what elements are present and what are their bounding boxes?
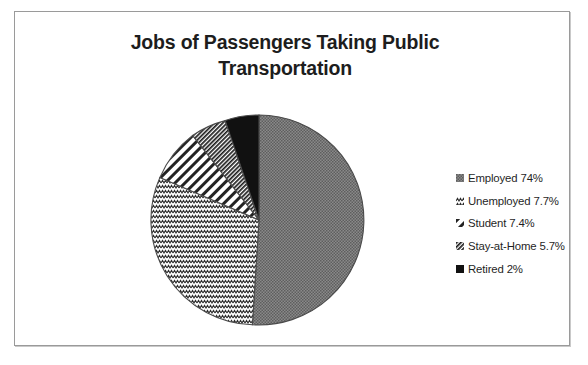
legend-swatch-zigzag-icon	[456, 197, 464, 205]
chart-title-line-1: Jobs of Passengers Taking Public	[131, 31, 440, 53]
pie-slice-employed[interactable]	[252, 115, 363, 325]
legend-swatch-dense-diagonal-icon	[456, 242, 464, 250]
legend-item-student[interactable]: Student 7.4%	[456, 212, 586, 235]
legend-item-retired[interactable]: Retired 2%	[456, 257, 586, 280]
legend-item-unemployed[interactable]: Unemployed 7.7%	[456, 190, 586, 213]
chart-title-line-2: Transportation	[218, 57, 352, 79]
legend-label-employed: Employed 74%	[468, 172, 543, 184]
pie-chart-plot-area	[143, 104, 375, 336]
legend-label-unemployed: Unemployed 7.7%	[468, 195, 559, 207]
legend-label-stay-at-home: Stay-at-Home 5.7%	[468, 240, 565, 252]
legend-item-employed[interactable]: Employed 74%	[456, 167, 586, 190]
legend-label-student: Student 7.4%	[468, 217, 535, 229]
legend-swatch-solid-black-icon	[456, 265, 464, 273]
pie-chart-svg	[143, 104, 375, 336]
chart-legend: Employed 74% Unemployed 7.7% Student 7.4…	[456, 167, 586, 280]
legend-label-retired: Retired 2%	[468, 263, 523, 275]
legend-swatch-diagonal-stripes-icon	[456, 219, 464, 227]
chart-title: Jobs of Passengers Taking Public Transpo…	[75, 30, 495, 81]
chart-frame: Jobs of Passengers Taking Public Transpo…	[14, 11, 570, 346]
legend-item-stay-at-home[interactable]: Stay-at-Home 5.7%	[456, 235, 586, 258]
legend-swatch-gray-dots-icon	[456, 174, 464, 182]
